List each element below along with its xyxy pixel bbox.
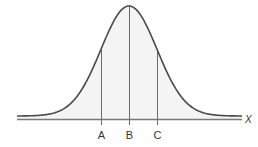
x-axis-label: X (244, 114, 252, 125)
marker-label-b: B (126, 129, 133, 141)
marker-labels: ABC (98, 129, 162, 141)
marker-label-c: C (154, 129, 162, 141)
bell-curve-diagram: X ABC (0, 0, 258, 147)
marker-label-a: A (98, 129, 106, 141)
